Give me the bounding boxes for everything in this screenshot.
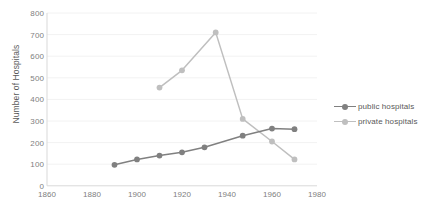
data-point — [240, 133, 246, 139]
data-point — [269, 126, 275, 132]
data-point — [112, 162, 118, 168]
data-point — [213, 30, 219, 36]
data-point — [292, 126, 298, 132]
legend-item-public-hospitals[interactable]: public hospitals — [334, 99, 425, 114]
chart-legend: public hospitals private hospitals — [334, 99, 425, 129]
data-point — [179, 67, 185, 73]
x-tick-1920: 1920 — [162, 190, 202, 199]
x-tick-1980: 1980 — [297, 190, 337, 199]
legend-item-private-hospitals[interactable]: private hospitals — [334, 114, 425, 129]
legend-label-public: public hospitals — [358, 102, 414, 111]
legend-label-private: private hospitals — [358, 117, 418, 126]
x-tick-1940: 1940 — [207, 190, 247, 199]
data-point — [269, 139, 275, 145]
data-point — [157, 153, 163, 159]
data-point — [134, 157, 140, 163]
x-tick-1860: 1860 — [27, 190, 67, 199]
data-point — [157, 85, 163, 91]
data-point — [179, 149, 185, 155]
x-tick-1900: 1900 — [117, 190, 157, 199]
series-public-hospitals — [112, 126, 298, 168]
x-axis-tick-labels: 1860 1880 1900 1920 1940 1960 1980 — [0, 190, 425, 206]
data-point — [240, 116, 246, 122]
data-point — [202, 144, 208, 150]
legend-marker-public-icon — [334, 102, 356, 111]
data-point — [292, 157, 298, 163]
x-tick-1880: 1880 — [72, 190, 112, 199]
legend-marker-private-icon — [334, 117, 356, 126]
x-tick-1960: 1960 — [252, 190, 292, 199]
hospitals-line-chart: Number of Hospitals 800 700 600 500 400 … — [0, 0, 425, 216]
gridlines — [47, 13, 317, 164]
